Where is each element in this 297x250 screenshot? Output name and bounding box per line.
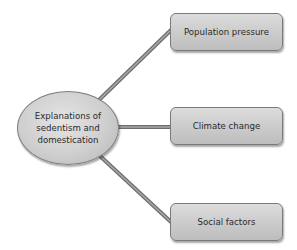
branch-label: Climate change bbox=[193, 121, 260, 131]
center-node-label: Explanations of sedentism and domesticat… bbox=[23, 110, 113, 146]
branch-node-social-factors: Social factors bbox=[170, 203, 283, 241]
branch-label: Population pressure bbox=[184, 27, 269, 37]
branch-label: Social factors bbox=[198, 217, 256, 227]
diagram-canvas: Explanations of sedentism and domesticat… bbox=[0, 0, 297, 250]
branch-node-climate-change: Climate change bbox=[170, 107, 283, 145]
center-node-ellipse: Explanations of sedentism and domesticat… bbox=[17, 91, 119, 165]
branch-node-population-pressure: Population pressure bbox=[170, 13, 283, 51]
